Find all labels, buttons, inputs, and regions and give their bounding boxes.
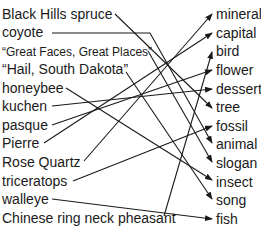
right-item-label: tree [216, 99, 240, 115]
right-item-label: dessert [216, 81, 261, 97]
left-item-label: “Hail, South Dakota” [2, 61, 128, 77]
left-item-label: kuchen [2, 98, 47, 114]
connection-arrow [164, 52, 212, 216]
connection-arrow [84, 14, 212, 161]
right-item-label: capital [216, 25, 256, 41]
right-item-label: insect [216, 174, 253, 190]
left-item-label: Rose Quartz [2, 154, 81, 170]
matching-diagram: Black Hills sprucecoyote“Great Faces, Gr… [0, 0, 261, 227]
left-item-label: pasque [2, 117, 48, 133]
left-item-label: triceratops [2, 173, 67, 189]
connection-arrow [126, 72, 212, 199]
right-item-label: slogan [216, 155, 257, 171]
right-item-label: animal [216, 136, 257, 152]
right-item-label: bird [216, 43, 239, 59]
left-item-label: Black Hills spruce [2, 6, 112, 22]
right-item-label: flower [216, 62, 253, 78]
right-item-label: fossil [216, 118, 248, 134]
right-item-label: mineral [216, 6, 261, 22]
left-item-label: Pierre [2, 135, 39, 151]
left-item-label: walleye [2, 191, 49, 207]
right-item-label: song [216, 192, 246, 208]
left-item-label: honeybee [2, 80, 64, 96]
left-item-label: coyote [2, 24, 43, 40]
right-item-label: fish [216, 211, 238, 227]
connection-arrow [52, 70, 212, 125]
left-item-label: Chinese ring neck pheasant [2, 210, 176, 226]
connection-arrow [73, 126, 212, 181]
left-item-label: “Great Faces, Great Places” [2, 44, 152, 60]
